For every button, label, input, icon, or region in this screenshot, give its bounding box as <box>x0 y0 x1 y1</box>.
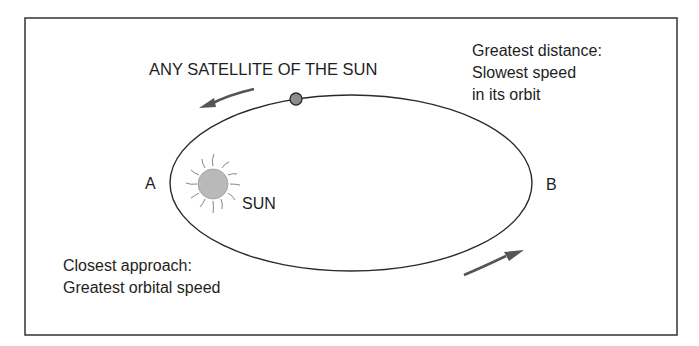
note-line: Greatest distance: <box>472 40 602 62</box>
sun-icon <box>186 154 240 213</box>
note-line: in its orbit <box>472 84 602 106</box>
point-a-label: A <box>145 173 156 195</box>
point-b-label: B <box>546 174 557 196</box>
sun-label: SUN <box>242 193 276 215</box>
direction-arrow-top-left-icon <box>199 89 254 108</box>
note-line: Closest approach: <box>63 255 220 277</box>
note-line: Greatest orbital speed <box>63 277 220 299</box>
greatest-distance-note: Greatest distance: Slowest speed in its … <box>472 40 602 106</box>
satellite-dot-icon <box>290 93 302 105</box>
closest-approach-note: Closest approach: Greatest orbital speed <box>63 255 220 299</box>
note-line: Slowest speed <box>472 62 602 84</box>
direction-arrow-bottom-right-icon <box>464 250 524 275</box>
diagram-title: ANY SATELLITE OF THE SUN <box>149 58 377 80</box>
